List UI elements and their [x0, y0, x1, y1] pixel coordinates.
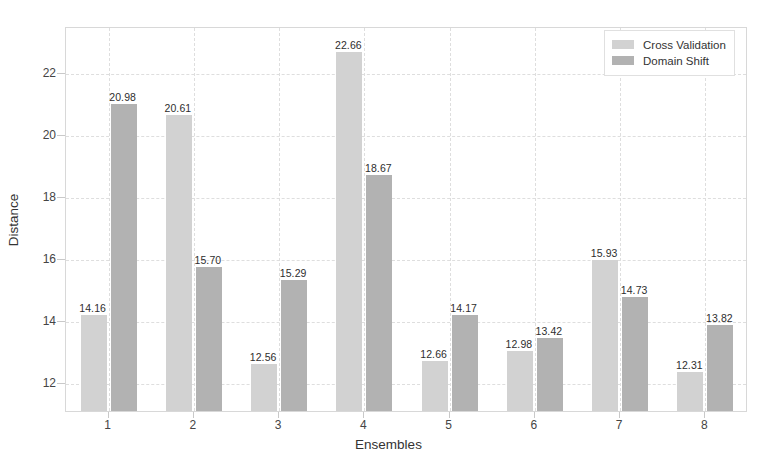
bar-value-label: 13.42	[535, 325, 562, 337]
gridline-vertical	[535, 28, 536, 411]
legend-swatch-icon-domain-shift	[612, 56, 634, 65]
bar-value-label: 12.56	[250, 351, 277, 363]
bar-value-label: 14.17	[450, 302, 477, 314]
bar	[81, 315, 107, 411]
bar-value-label: 12.98	[505, 338, 532, 350]
x-tick-label: 6	[531, 418, 538, 432]
bar-value-label: 18.67	[365, 162, 392, 174]
bar	[452, 315, 478, 411]
bar	[336, 52, 362, 411]
x-tick-label: 8	[701, 418, 708, 432]
bar	[251, 364, 277, 411]
bar-value-label: 20.61	[164, 102, 191, 114]
y-tick-label: 12	[43, 376, 56, 390]
x-tick-mark	[108, 412, 109, 418]
bar-value-label: 14.73	[621, 284, 648, 296]
bar-value-label: 22.66	[335, 39, 362, 51]
x-tick-label: 1	[104, 418, 111, 432]
x-tick-mark	[278, 412, 279, 418]
y-tick-mark	[57, 259, 65, 260]
x-tick-mark	[619, 412, 620, 418]
gridline-vertical	[194, 28, 195, 411]
bar	[537, 338, 563, 411]
legend-swatch-icon-cross-validation	[612, 40, 634, 49]
bar	[707, 325, 733, 411]
legend-label-domain-shift: Domain Shift	[643, 55, 709, 67]
x-tick-label: 7	[616, 418, 623, 432]
bar-value-label: 14.16	[79, 302, 106, 314]
bar-value-label: 20.98	[109, 91, 136, 103]
legend-item-cross-validation: Cross Validation	[612, 37, 726, 52]
x-tick-label: 4	[360, 418, 367, 432]
x-tick-mark	[449, 412, 450, 418]
bar	[592, 260, 618, 411]
gridline-vertical	[450, 28, 451, 411]
x-tick-mark	[704, 412, 705, 418]
x-tick-label: 3	[275, 418, 282, 432]
bar-chart: Distance Ensembles 121416182022 12345678…	[0, 0, 777, 475]
legend-item-domain-shift: Domain Shift	[612, 53, 726, 68]
bar	[166, 115, 192, 411]
x-tick-label: 5	[445, 418, 452, 432]
bar	[422, 361, 448, 411]
x-axis-title: Ensembles	[0, 437, 777, 452]
bar-value-label: 13.82	[706, 312, 733, 324]
plot-area	[65, 27, 747, 412]
y-axis-title: Distance	[6, 194, 21, 247]
legend-label-cross-validation: Cross Validation	[643, 39, 726, 51]
x-tick-mark	[534, 412, 535, 418]
bar-value-label: 12.66	[420, 348, 447, 360]
gridline-vertical	[364, 28, 365, 411]
bar	[281, 280, 307, 411]
x-tick-label: 2	[190, 418, 197, 432]
bar-value-label: 15.70	[194, 254, 221, 266]
gridline-vertical	[279, 28, 280, 411]
gridline-vertical	[109, 28, 110, 411]
y-tick-mark	[57, 135, 65, 136]
y-tick-mark	[57, 197, 65, 198]
y-tick-label: 14	[43, 314, 56, 328]
bar	[111, 104, 137, 411]
x-tick-mark	[363, 412, 364, 418]
bar	[366, 175, 392, 411]
x-tick-mark	[193, 412, 194, 418]
bar-value-label: 15.93	[591, 247, 618, 259]
y-tick-mark	[57, 73, 65, 74]
y-tick-label: 20	[43, 128, 56, 142]
y-tick-label: 16	[43, 252, 56, 266]
gridline-vertical	[705, 28, 706, 411]
y-tick-mark	[57, 321, 65, 322]
bar-value-label: 15.29	[280, 267, 307, 279]
bar	[196, 267, 222, 411]
bar	[677, 372, 703, 411]
y-tick-label: 22	[43, 66, 56, 80]
gridline-vertical	[620, 28, 621, 411]
bar	[507, 351, 533, 411]
chart-legend: Cross Validation Domain Shift	[604, 30, 735, 76]
bar	[622, 297, 648, 411]
y-tick-mark	[57, 383, 65, 384]
bar-value-label: 12.31	[676, 359, 703, 371]
y-tick-label: 18	[43, 190, 56, 204]
